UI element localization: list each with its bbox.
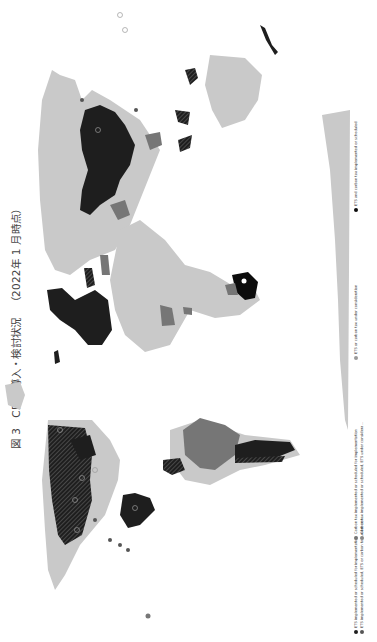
legend-item-ets: ETS implemented or scheduled for impleme…	[354, 536, 358, 634]
world-map	[0, 0, 377, 642]
region-new-zealand	[260, 25, 278, 55]
legend-item-both: ETS and carbon tax implemented or schedu…	[354, 122, 358, 212]
region-greenland	[5, 382, 25, 410]
region-mexico	[120, 493, 155, 528]
region-antarctica	[322, 110, 350, 430]
legend-swatch-consideration	[354, 356, 358, 360]
region-uk	[54, 350, 60, 364]
legend-swatch-carbon-tax-hatched	[360, 536, 364, 540]
legend-swatch-both	[354, 208, 358, 212]
region-australia	[205, 55, 262, 128]
region-japan	[185, 68, 198, 85]
region-europe-ets	[47, 288, 112, 345]
region-middle-east	[100, 255, 110, 275]
legend-swatch-ets	[354, 630, 358, 634]
legend-swatch-carbon-tax	[354, 536, 358, 540]
legend-item-carbon-tax-hatched: Carbon tax implemented or scheduled, ETS…	[360, 422, 364, 540]
region-se-asia	[178, 135, 192, 152]
region-korea	[175, 110, 190, 125]
region-africa-ct2	[183, 307, 192, 315]
legend-item-consideration: ETS or carbon tax under consideration	[354, 285, 358, 360]
legend-swatch-ets-hatched	[360, 630, 364, 634]
legend: ETS implemented or scheduled for impleme…	[352, 108, 374, 638]
region-europe-hatched	[84, 268, 95, 288]
legend-item-carbon-tax: Carbon tax implemented or scheduled for …	[354, 429, 358, 540]
